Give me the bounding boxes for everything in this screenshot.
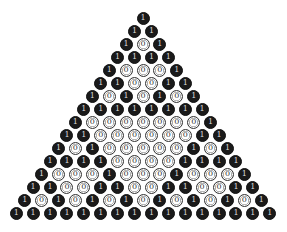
cell-zero-circle: 0	[69, 142, 82, 155]
cell-one-circle: 1	[86, 142, 99, 155]
cell-one-circle: 1	[94, 181, 107, 194]
cell-one-circle: 1	[128, 207, 141, 220]
cell-one-circle: 1	[179, 181, 192, 194]
cell-one-circle: 1	[153, 38, 166, 51]
cell-one-circle: 1	[162, 103, 175, 116]
cell-zero-circle: 0	[170, 116, 183, 129]
cell-zero-circle: 0	[128, 129, 141, 142]
cell-one-circle: 1	[246, 181, 259, 194]
cell-one-circle: 1	[94, 77, 107, 90]
cell-one-circle: 1	[170, 64, 183, 77]
cell-zero-circle: 0	[145, 155, 158, 168]
cell-zero-circle: 0	[77, 181, 90, 194]
cell-one-circle: 1	[120, 194, 133, 207]
cell-zero-circle: 0	[103, 194, 116, 207]
cell-one-circle: 1	[213, 129, 226, 142]
cell-one-circle: 1	[196, 207, 209, 220]
cell-one-circle: 1	[179, 155, 192, 168]
cell-one-circle: 1	[196, 155, 209, 168]
cell-one-circle: 1	[128, 51, 141, 64]
cell-zero-circle: 0	[120, 64, 133, 77]
cell-one-circle: 1	[196, 103, 209, 116]
cell-one-circle: 1	[52, 194, 65, 207]
cell-zero-circle: 0	[196, 181, 209, 194]
cell-one-circle: 1	[238, 168, 251, 181]
cell-zero-circle: 0	[145, 77, 158, 90]
cell-one-circle: 1	[52, 142, 65, 155]
cell-one-circle: 1	[229, 181, 242, 194]
cell-one-circle: 1	[187, 90, 200, 103]
cell-one-circle: 1	[162, 207, 175, 220]
cell-zero-circle: 0	[120, 168, 133, 181]
cell-one-circle: 1	[213, 207, 226, 220]
cell-zero-circle: 0	[137, 90, 150, 103]
cell-zero-circle: 0	[35, 194, 48, 207]
cell-one-circle: 1	[86, 90, 99, 103]
cell-one-circle: 1	[35, 168, 48, 181]
cell-zero-circle: 0	[69, 168, 82, 181]
cell-one-circle: 1	[94, 103, 107, 116]
cell-zero-circle: 0	[128, 181, 141, 194]
cell-zero-circle: 0	[111, 129, 124, 142]
cell-zero-circle: 0	[137, 116, 150, 129]
cell-zero-circle: 0	[170, 142, 183, 155]
cell-zero-circle: 0	[137, 142, 150, 155]
cell-zero-circle: 0	[153, 64, 166, 77]
cell-zero-circle: 0	[94, 129, 107, 142]
cell-one-circle: 1	[60, 129, 73, 142]
cell-one-circle: 1	[213, 155, 226, 168]
cell-one-circle: 1	[10, 207, 23, 220]
cell-one-circle: 1	[103, 64, 116, 77]
cell-zero-circle: 0	[145, 129, 158, 142]
cell-zero-circle: 0	[170, 194, 183, 207]
cell-zero-circle: 0	[103, 116, 116, 129]
cell-zero-circle: 0	[128, 77, 141, 90]
cell-one-circle: 1	[162, 51, 175, 64]
cell-zero-circle: 0	[204, 194, 217, 207]
cell-zero-circle: 0	[120, 142, 133, 155]
cell-zero-circle: 0	[137, 168, 150, 181]
cell-zero-circle: 0	[137, 64, 150, 77]
cell-zero-circle: 0	[52, 168, 65, 181]
pascal-triangle-mod2: 1111011111100011100111010101111111111000…	[0, 0, 287, 232]
cell-zero-circle: 0	[162, 155, 175, 168]
cell-one-circle: 1	[111, 77, 124, 90]
cell-one-circle: 1	[221, 194, 234, 207]
cell-zero-circle: 0	[103, 90, 116, 103]
cell-one-circle: 1	[77, 155, 90, 168]
cell-zero-circle: 0	[120, 116, 133, 129]
cell-zero-circle: 0	[153, 116, 166, 129]
cell-zero-circle: 0	[153, 168, 166, 181]
cell-one-circle: 1	[60, 155, 73, 168]
cell-one-circle: 1	[229, 155, 242, 168]
cell-one-circle: 1	[77, 129, 90, 142]
cell-zero-circle: 0	[86, 116, 99, 129]
cell-one-circle: 1	[246, 207, 259, 220]
cell-one-circle: 1	[120, 90, 133, 103]
cell-one-circle: 1	[145, 25, 158, 38]
cell-one-circle: 1	[229, 207, 242, 220]
cell-one-circle: 1	[179, 207, 192, 220]
cell-one-circle: 1	[187, 142, 200, 155]
cell-zero-circle: 0	[204, 142, 217, 155]
cell-zero-circle: 0	[86, 168, 99, 181]
cell-one-circle: 1	[128, 103, 141, 116]
cell-zero-circle: 0	[187, 168, 200, 181]
cell-one-circle: 1	[103, 168, 116, 181]
cell-one-circle: 1	[221, 142, 234, 155]
cell-one-circle: 1	[153, 194, 166, 207]
cell-zero-circle: 0	[162, 129, 175, 142]
cell-zero-circle: 0	[238, 194, 251, 207]
cell-one-circle: 1	[44, 155, 57, 168]
cell-one-circle: 1	[44, 207, 57, 220]
cell-one-circle: 1	[255, 194, 268, 207]
cell-one-circle: 1	[179, 103, 192, 116]
cell-zero-circle: 0	[221, 168, 234, 181]
cell-one-circle: 1	[204, 116, 217, 129]
cell-one-circle: 1	[27, 207, 40, 220]
cell-one-circle: 1	[162, 181, 175, 194]
cell-one-circle: 1	[60, 207, 73, 220]
cell-one-circle: 1	[153, 90, 166, 103]
cell-one-circle: 1	[69, 116, 82, 129]
cell-one-circle: 1	[94, 207, 107, 220]
